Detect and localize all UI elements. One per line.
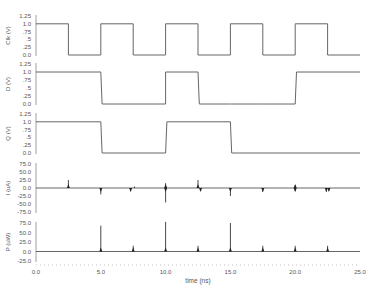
spike-head: [99, 248, 102, 252]
y-tick-label: 25.0: [19, 239, 31, 245]
panel-p: 75.050.025.00.0-25.0P (uW): [5, 220, 360, 264]
spike-head: [294, 248, 297, 252]
y-tick-label: .25: [23, 93, 32, 99]
y-tick-label: 50.0: [19, 230, 31, 236]
spike-head: [261, 248, 264, 252]
x-tick-label: 0.0: [32, 269, 41, 275]
x-axis: 0.05.010.015.020.025.0time (ns): [32, 265, 367, 285]
y-tick-label: -75.0: [17, 209, 31, 215]
x-axis-label: time (ns): [185, 277, 210, 285]
y-tick-label: 0.0: [23, 249, 32, 255]
spike-head: [294, 184, 297, 188]
y-axis-label: Clk (V): [5, 26, 11, 44]
panel-d: 1.251.0.75.5.250.0D (V): [5, 61, 360, 107]
spike-head: [294, 188, 297, 192]
y-tick-label: .25: [23, 142, 32, 148]
y-tick-label: 25.0: [19, 177, 31, 183]
spike-head: [199, 188, 202, 192]
y-tick-label: 1.0: [23, 21, 32, 27]
waveform-line: [36, 24, 360, 55]
y-tick-label: .5: [26, 134, 32, 140]
y-tick-label: 75.0: [19, 220, 31, 226]
spike-head: [326, 248, 329, 252]
y-tick-label: 75.0: [19, 161, 31, 167]
spike-head: [327, 188, 330, 192]
x-tick-label: 20.0: [289, 269, 301, 275]
y-axis-label: I (uA): [5, 181, 11, 196]
panel-i: 75.050.025.00.0-25.0-50.0-75.0I (uA): [5, 161, 360, 215]
y-tick-label: 1.25: [19, 111, 31, 117]
y-tick-label: .25: [23, 44, 32, 50]
panel-clk: 1.251.0.75.5.250.0Clk (V): [5, 13, 360, 58]
spike-head: [325, 188, 328, 192]
y-tick-label: 0.0: [23, 185, 32, 191]
y-tick-label: -50.0: [17, 201, 31, 207]
y-tick-label: -25.0: [17, 193, 31, 199]
waveform-line: [36, 72, 360, 104]
waveform-chart: 1.251.0.75.5.250.0Clk (V)1.251.0.75.5.25…: [0, 0, 371, 287]
x-tick-label: 5.0: [97, 269, 106, 275]
y-tick-label: 1.0: [23, 69, 32, 75]
y-axis-label: P (uW): [5, 233, 11, 252]
y-tick-label: .5: [26, 36, 32, 42]
spike-head: [164, 188, 167, 192]
spike-head: [129, 188, 132, 192]
spike-head: [197, 184, 200, 188]
y-tick-label: 1.25: [19, 61, 31, 67]
spike-head: [164, 248, 167, 252]
y-tick-label: .75: [23, 77, 32, 83]
spike-head: [197, 248, 200, 252]
y-axis-label: Q (V): [5, 126, 11, 140]
waveform-line: [36, 122, 360, 153]
y-tick-label: 1.25: [19, 13, 31, 19]
panel-q: 1.251.0.75.5.250.0Q (V): [5, 111, 360, 156]
y-tick-label: .75: [23, 29, 32, 35]
x-tick-label: 25.0: [354, 269, 366, 275]
y-tick-label: 50.0: [19, 169, 31, 175]
spike-head: [67, 184, 70, 188]
y-axis-label: D (V): [5, 77, 11, 91]
y-tick-label: 0.0: [23, 150, 32, 156]
y-tick-label: 0.0: [23, 52, 32, 58]
spike-head: [99, 188, 102, 192]
spike-head: [229, 248, 232, 252]
y-tick-label: .5: [26, 85, 32, 91]
y-tick-label: .75: [23, 127, 32, 133]
spike-head: [229, 188, 232, 192]
x-tick-label: 10.0: [160, 269, 172, 275]
y-tick-label: 1.0: [23, 119, 32, 125]
y-tick-label: -25.0: [17, 258, 31, 264]
y-tick-label: 0.0: [23, 101, 32, 107]
spike-head: [164, 184, 167, 188]
x-tick-label: 15.0: [225, 269, 237, 275]
spike-head: [132, 248, 135, 252]
spike-head: [261, 188, 264, 192]
